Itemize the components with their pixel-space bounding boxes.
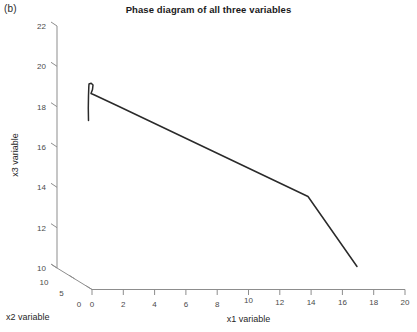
x3-tick-label: 22 xyxy=(37,22,46,31)
x1-tick-label: 6 xyxy=(184,300,189,309)
x1-tick-label: 16 xyxy=(338,298,347,307)
x3-tick-label: 16 xyxy=(37,143,46,152)
x1-tick-label: 4 xyxy=(152,300,157,309)
phase-trajectory-curve xyxy=(88,83,357,266)
x1-tick-label: 14 xyxy=(307,298,316,307)
x2-tick-labels: 10 5 0 xyxy=(40,278,82,309)
x1-tick-label: 10 xyxy=(244,296,253,305)
x2-axis-label: x2 variable xyxy=(6,312,50,322)
x1-tick-marks xyxy=(92,290,405,296)
x1-tick-label: 2 xyxy=(121,300,126,309)
x2-tick-label: 10 xyxy=(40,278,49,287)
x2-tick-label: 5 xyxy=(59,289,64,298)
x1-tick-label: 8 xyxy=(215,300,220,309)
x3-tick-label: 18 xyxy=(37,103,46,112)
x3-axis-label: x3 variable xyxy=(10,133,20,177)
x3-tick-label: 12 xyxy=(37,224,46,233)
x3-tick-label: 10 xyxy=(37,264,46,273)
figure-container: (b) Phase diagram of all three variables… xyxy=(0,0,417,332)
x3-tick-labels: 10 12 14 16 18 20 22 xyxy=(37,22,46,273)
x1-tick-label: 0 xyxy=(90,300,95,309)
x1-tick-label: 12 xyxy=(275,298,284,307)
x3-tick-label: 14 xyxy=(37,183,46,192)
x1-tick-labels: 0 2 4 6 8 10 12 14 16 18 20 xyxy=(90,296,410,309)
x2-tick-label: 0 xyxy=(77,300,82,309)
plot-axes: 10 12 14 16 18 20 22 10 5 0 xyxy=(0,0,417,332)
x1-axis-label: x1 variable xyxy=(227,314,271,324)
x3-tick-label: 20 xyxy=(37,62,46,71)
x3-tick-marks xyxy=(51,22,57,268)
x1-tick-label: 18 xyxy=(369,298,378,307)
x1-tick-label: 20 xyxy=(401,298,410,307)
